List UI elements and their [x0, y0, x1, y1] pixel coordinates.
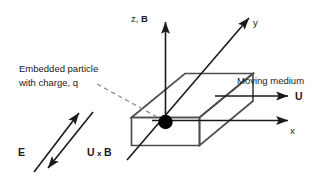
y-axis-label: y [253, 17, 258, 28]
e-field-arrow [48, 112, 93, 168]
uxb-label-u: U [87, 146, 95, 158]
moving-medium-label: Moving medium [237, 75, 304, 86]
velocity-vector-label: U [295, 90, 303, 102]
physics-diagram-figure: z, B y x Embedded particle with charge, … [0, 0, 328, 182]
e-field-vector-label: E [18, 146, 25, 158]
z-axis-label-z: z, [131, 13, 141, 24]
uxb-vector-label: UxB [87, 146, 112, 158]
particle-caption-line-2: with charge, q [18, 77, 78, 88]
uxb-arrow [34, 113, 79, 172]
particle-leader-dashed-line [97, 84, 159, 118]
z-axis-label: z, B [131, 13, 148, 24]
z-axis-label-b: B [141, 13, 148, 24]
x-axis-label: x [290, 125, 295, 136]
particle-caption-line-1: Embedded particle [19, 63, 98, 74]
y-axis-line [127, 18, 249, 160]
uxb-label-times: x [97, 149, 102, 158]
embedded-particle-dot [158, 115, 172, 129]
uxb-label-b: B [104, 146, 112, 158]
diagram-canvas: z, B y x Embedded particle with charge, … [0, 0, 328, 182]
